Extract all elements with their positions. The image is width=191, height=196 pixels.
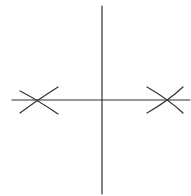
diagram-canvas	[0, 0, 191, 196]
left-arc-mark-a	[20, 91, 58, 114]
construction-svg	[0, 0, 191, 196]
